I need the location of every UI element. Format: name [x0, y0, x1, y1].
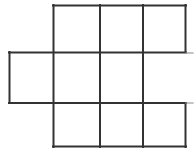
grid-cell-r0-c2 — [143, 5, 186, 52]
grid-cell-r2-c0 — [53, 103, 100, 147]
grid-cell-r0-c1 — [100, 5, 143, 52]
grid-cell-r2-c2 — [143, 103, 186, 147]
grid-cell-r2-c1 — [100, 103, 143, 147]
grid-cell-r1-c2 — [143, 52, 186, 103]
grid-cell-r1-c1 — [100, 52, 143, 103]
polyomino-net-figure: Polyomino net diagram Line drawing of a … — [0, 0, 195, 154]
figure-container: Polyomino net diagram Line drawing of a … — [0, 0, 195, 154]
grid-cell-r1-c0 — [53, 52, 100, 103]
protruding-cell-left — [9, 52, 53, 103]
grid-cell-r0-c0 — [53, 5, 100, 52]
